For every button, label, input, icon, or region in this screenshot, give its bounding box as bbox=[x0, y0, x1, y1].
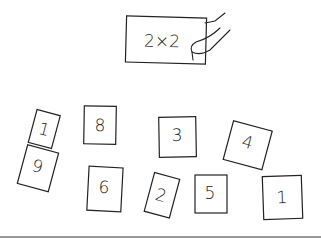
card-4: 4 bbox=[223, 121, 272, 170]
card-6: 6 bbox=[87, 166, 123, 212]
card-2: 2 bbox=[144, 173, 179, 218]
target-card: 2×2 bbox=[125, 16, 206, 64]
svg-text:5: 5 bbox=[205, 183, 216, 203]
svg-text:8: 8 bbox=[94, 115, 105, 135]
card-sketch: 2×2 1 8 3 4 9 6 2 5 1 bbox=[0, 0, 321, 238]
svg-text:3: 3 bbox=[171, 125, 182, 145]
card-1b: 1 bbox=[262, 175, 302, 219]
card-5: 5 bbox=[195, 175, 227, 213]
card-3: 3 bbox=[159, 117, 197, 158]
card-9: 9 bbox=[17, 145, 58, 192]
card-1: 1 bbox=[28, 110, 60, 149]
svg-text:6: 6 bbox=[98, 177, 110, 198]
svg-text:1: 1 bbox=[276, 187, 288, 207]
card-8: 8 bbox=[84, 106, 117, 145]
target-card-label: 2×2 bbox=[144, 30, 180, 51]
